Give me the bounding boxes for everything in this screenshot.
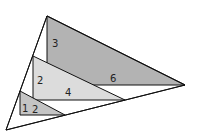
medium-base-label: 4 bbox=[65, 87, 71, 98]
large-leg-label: 3 bbox=[52, 38, 58, 49]
small-base-label: 2 bbox=[32, 104, 38, 115]
medium-leg-label: 2 bbox=[37, 75, 43, 86]
similar-triangles-diagram: 3 6 2 4 1 2 bbox=[0, 0, 198, 140]
small-leg-label: 1 bbox=[22, 103, 28, 114]
large-base-label: 6 bbox=[110, 73, 116, 84]
